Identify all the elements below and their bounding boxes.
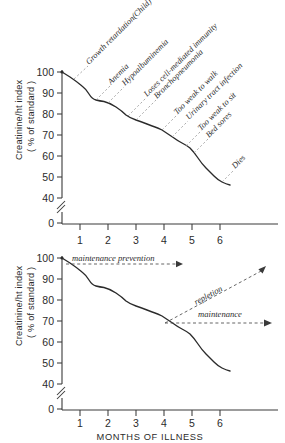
bottom-y-axis-title: Creatinine/ht index ( % of standard ) — [14, 265, 36, 346]
ytick-100-b: 100 — [36, 252, 54, 264]
bottom-chart-svg: 1 2 3 4 5 6 100 — [0, 232, 285, 443]
curve-start-marker — [60, 70, 63, 73]
ytick-50-b: 50 — [42, 357, 54, 369]
ylabel-line1: Creatinine/ht index — [14, 79, 24, 160]
top-y-ticklabels: 100 90 80 70 60 50 40 0 — [36, 66, 54, 229]
ytick-60: 60 — [42, 150, 54, 162]
ytick-80: 80 — [42, 108, 54, 120]
top-annotations: Growth retardation(Child) Anemia Hypoalb… — [84, 0, 247, 171]
annotation-dies: Dies — [229, 153, 247, 171]
ytick-0: 0 — [48, 217, 54, 229]
ylabel-line2: ( % of standard ) — [26, 81, 36, 152]
xtick-2: 2 — [105, 417, 111, 429]
top-y-axis — [57, 70, 65, 224]
top-xtick-3: 3 — [133, 234, 139, 246]
ytick-90-b: 90 — [42, 273, 54, 285]
top-xtick-5: 5 — [189, 234, 195, 246]
top-x-axis — [62, 224, 278, 230]
bottom-y-axis — [57, 256, 65, 410]
bottom-x-ticklabels-top: 1 2 3 4 5 6 — [77, 234, 223, 246]
xtick-3: 3 — [133, 417, 139, 429]
top-xtick-2: 2 — [105, 234, 111, 246]
xtick-4: 4 — [161, 417, 167, 429]
xtick-1: 1 — [77, 417, 83, 429]
ylabel-line2-b: ( % of standard ) — [26, 267, 36, 338]
maintenance-prevention-arrow: maintenance prevention — [66, 253, 183, 267]
xtick-5: 5 — [189, 417, 195, 429]
ytick-40: 40 — [42, 192, 54, 204]
bottom-x-axis: 1 2 3 4 5 6 MONTHS OF ILLNESS — [62, 410, 278, 442]
top-xtick-4: 4 — [161, 234, 167, 246]
label-maintenance: maintenance — [198, 309, 242, 319]
bottom-y-ticklabels: 100 90 80 70 60 50 40 0 — [36, 252, 54, 415]
arrowhead-maintenance-prevention — [176, 261, 183, 267]
ytick-70: 70 — [42, 129, 54, 141]
arrowhead-repletion — [258, 266, 266, 274]
top-xtick-6: 6 — [217, 234, 223, 246]
chart-panel-top: 100 90 80 70 60 50 40 0 Creatinine/ht in… — [0, 0, 285, 232]
figure-root: 100 90 80 70 60 50 40 0 Creatinine/ht in… — [0, 0, 285, 443]
ytick-0-b: 0 — [48, 403, 54, 415]
top-chart-svg: 100 90 80 70 60 50 40 0 Creatinine/ht in… — [0, 0, 285, 232]
ytick-60-b: 60 — [42, 336, 54, 348]
ytick-50: 50 — [42, 171, 54, 183]
chart-panel-bottom: 1 2 3 4 5 6 100 — [0, 232, 285, 443]
ytick-80-b: 80 — [42, 294, 54, 306]
top-y-axis-title: Creatinine/ht index ( % of standard ) — [14, 79, 36, 160]
ylabel-line1-b: Creatinine/ht index — [14, 265, 24, 346]
ytick-100: 100 — [36, 66, 54, 78]
annotation-growth-retardation: Growth retardation(Child) — [84, 0, 154, 66]
xaxis-title: MONTHS OF ILLNESS — [97, 432, 204, 442]
ytick-70-b: 70 — [42, 315, 54, 327]
label-repletion: repletion — [192, 284, 224, 307]
ytick-40-b: 40 — [42, 378, 54, 390]
label-maintenance-prevention: maintenance prevention — [72, 253, 155, 263]
arrowhead-maintenance — [264, 320, 272, 327]
curve-start-marker-b — [60, 256, 63, 259]
maintenance-arrow: maintenance — [165, 309, 272, 326]
xtick-6: 6 — [217, 417, 223, 429]
ytick-90: 90 — [42, 87, 54, 99]
top-xtick-1: 1 — [77, 234, 83, 246]
